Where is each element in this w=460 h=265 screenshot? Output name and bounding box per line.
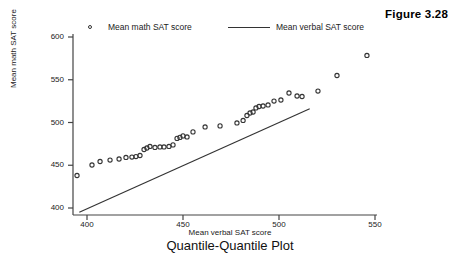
data-point xyxy=(266,103,270,107)
data-point xyxy=(75,173,79,177)
plot-axes xyxy=(73,34,377,215)
reference-line-series xyxy=(79,109,309,212)
data-point xyxy=(335,73,339,77)
reference-line xyxy=(79,109,309,212)
data-point xyxy=(117,157,121,161)
x-axis-ticks xyxy=(87,215,375,220)
y-axis-ticks xyxy=(68,37,73,208)
plot-title: Quantile-Quantile Plot xyxy=(0,238,460,253)
y-tick-label: 450 xyxy=(40,160,64,169)
data-point xyxy=(203,125,207,129)
figure-container: Mean math SAT score Mean verbal SAT scor… xyxy=(0,0,460,265)
y-tick-label: 600 xyxy=(40,32,64,41)
data-point xyxy=(365,53,369,57)
data-point xyxy=(191,130,195,134)
x-axis-title: Mean verbal SAT score xyxy=(0,228,460,237)
data-point xyxy=(153,145,157,149)
data-point-series xyxy=(75,53,369,177)
y-tick-label: 500 xyxy=(40,118,64,127)
data-point xyxy=(218,124,222,128)
y-tick-label: 400 xyxy=(40,203,64,212)
y-tick-label: 550 xyxy=(40,75,64,84)
data-point xyxy=(287,91,291,95)
data-point xyxy=(124,155,128,159)
data-point xyxy=(108,158,112,162)
data-point xyxy=(272,99,276,103)
scatter-plot-canvas xyxy=(0,0,460,265)
data-point xyxy=(279,98,283,102)
data-point xyxy=(241,118,245,122)
data-point xyxy=(171,143,175,147)
data-point xyxy=(295,94,299,98)
data-point xyxy=(138,153,142,157)
data-point xyxy=(235,121,239,125)
data-point xyxy=(300,94,304,98)
data-point xyxy=(185,135,189,139)
data-point xyxy=(90,163,94,167)
data-point xyxy=(316,89,320,93)
data-point xyxy=(98,159,102,163)
